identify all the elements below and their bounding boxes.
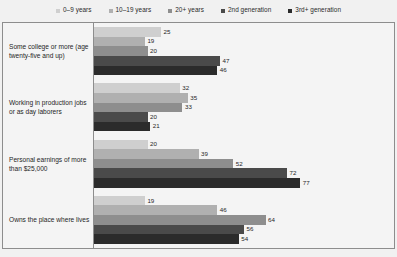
legend-item-label: 0–9 years <box>63 7 92 13</box>
bar[interactable] <box>94 66 217 76</box>
legend-item[interactable]: 0–9 years <box>56 7 92 13</box>
legend-item-label: 3rd+ generation <box>295 7 341 13</box>
bar-value-label: 46 <box>220 67 227 73</box>
bar[interactable] <box>94 37 145 47</box>
category-label-cell: Some college or more (age twenty-five an… <box>3 23 94 79</box>
bar[interactable] <box>94 112 148 122</box>
category-label: Working in production jobs or as day lab… <box>9 98 90 116</box>
bar-row[interactable]: 32 <box>94 83 394 93</box>
bar-row[interactable]: 39 <box>94 149 394 159</box>
legend-item-label: 10–19 years <box>116 7 152 13</box>
chart-category-group: Personal earnings of more than $25,00020… <box>3 136 394 192</box>
plot-area: Some college or more (age twenty-five an… <box>2 22 395 249</box>
bar[interactable] <box>94 168 287 178</box>
chart-category-group: Working in production jobs or as day lab… <box>3 79 394 135</box>
bar[interactable] <box>94 83 180 93</box>
bar-row[interactable]: 21 <box>94 122 394 132</box>
bar-row[interactable]: 54 <box>94 234 394 244</box>
legend-swatch-icon <box>221 9 225 13</box>
category-label: Some college or more (age twenty-five an… <box>9 42 90 60</box>
category-bars: 3235332021 <box>94 79 394 135</box>
bar-value-label: 39 <box>201 151 208 157</box>
category-bars: 2519204746 <box>94 23 394 79</box>
bar-row[interactable]: 19 <box>94 37 394 47</box>
legend-item[interactable]: 2nd generation <box>221 7 271 13</box>
bar-value-label: 19 <box>147 198 154 204</box>
bar-value-label: 35 <box>190 95 197 101</box>
bar-value-label: 52 <box>236 161 243 167</box>
bar[interactable] <box>94 159 233 169</box>
category-label-cell: Personal earnings of more than $25,000 <box>3 136 94 192</box>
category-bars: 2039527277 <box>94 136 394 192</box>
bar[interactable] <box>94 27 161 37</box>
bar[interactable] <box>94 234 239 244</box>
category-label: Personal earnings of more than $25,000 <box>9 155 90 173</box>
category-bars: 1946645654 <box>94 192 394 248</box>
bar-value-label: 19 <box>147 38 154 44</box>
bar-row[interactable]: 20 <box>94 140 394 150</box>
bar-row[interactable]: 20 <box>94 112 394 122</box>
legend-item-label: 2nd generation <box>228 7 271 13</box>
bar-value-label: 56 <box>247 226 254 232</box>
bar-row[interactable]: 25 <box>94 27 394 37</box>
bar[interactable] <box>94 225 244 235</box>
legend-swatch-icon <box>168 9 172 13</box>
bar-value-label: 20 <box>150 48 157 54</box>
bar-value-label: 20 <box>150 141 157 147</box>
bar-value-label: 72 <box>289 170 296 176</box>
bar-row[interactable]: 46 <box>94 66 394 76</box>
bar-row[interactable]: 47 <box>94 56 394 66</box>
bar-row[interactable]: 64 <box>94 215 394 225</box>
bar-value-label: 25 <box>164 29 171 35</box>
legend-item[interactable]: 20+ years <box>168 7 204 13</box>
bar-row[interactable]: 46 <box>94 205 394 215</box>
category-label-cell: Owns the place where lives <box>3 192 94 248</box>
bar[interactable] <box>94 140 148 150</box>
bar[interactable] <box>94 205 217 215</box>
bar-value-label: 32 <box>182 85 189 91</box>
bar[interactable] <box>94 56 220 66</box>
chart-category-group: Some college or more (age twenty-five an… <box>3 23 394 79</box>
category-label: Owns the place where lives <box>9 215 89 224</box>
legend-item[interactable]: 3rd+ generation <box>288 7 341 13</box>
bar-value-label: 46 <box>220 207 227 213</box>
chart-category-group: Owns the place where lives1946645654 <box>3 192 394 248</box>
bar-row[interactable]: 35 <box>94 93 394 103</box>
bar-value-label: 54 <box>241 236 248 242</box>
bar-value-label: 21 <box>153 123 160 129</box>
bar-row[interactable]: 77 <box>94 178 394 188</box>
bar[interactable] <box>94 215 266 225</box>
bar-chart-figure: 0–9 years10–19 years20+ years2nd generat… <box>0 0 397 257</box>
legend-item-label: 20+ years <box>175 7 204 13</box>
bar-row[interactable]: 20 <box>94 46 394 56</box>
bar-row[interactable]: 56 <box>94 225 394 235</box>
legend-swatch-icon <box>109 9 113 13</box>
bar[interactable] <box>94 93 188 103</box>
bar[interactable] <box>94 46 148 56</box>
legend-swatch-icon <box>56 9 60 13</box>
chart-legend: 0–9 years10–19 years20+ years2nd generat… <box>0 0 397 21</box>
legend-item[interactable]: 10–19 years <box>109 7 152 13</box>
bar-row[interactable]: 19 <box>94 196 394 206</box>
bar-row[interactable]: 33 <box>94 103 394 113</box>
bar-value-label: 64 <box>268 217 275 223</box>
bar-row[interactable]: 72 <box>94 168 394 178</box>
legend-swatch-icon <box>288 9 292 13</box>
bar-row[interactable]: 52 <box>94 159 394 169</box>
bar[interactable] <box>94 196 145 206</box>
bar[interactable] <box>94 149 199 159</box>
bar-value-label: 33 <box>185 104 192 110</box>
bar[interactable] <box>94 122 150 132</box>
bar-value-label: 77 <box>303 180 310 186</box>
bar[interactable] <box>94 103 182 113</box>
category-label-cell: Working in production jobs or as day lab… <box>3 79 94 135</box>
bar-value-label: 20 <box>150 114 157 120</box>
bar[interactable] <box>94 178 300 188</box>
bar-value-label: 47 <box>222 58 229 64</box>
